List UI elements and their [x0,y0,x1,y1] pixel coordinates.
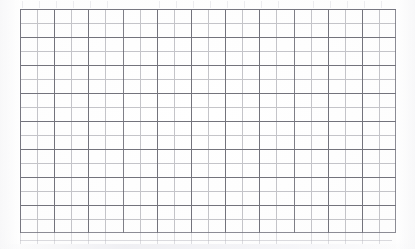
grid-block [20,9,396,233]
top-edge-ruling-artifact [22,1,392,8]
bottom-edge-rule-line [20,240,392,241]
left-margin-shading [0,0,20,249]
graph-paper-sheet [0,0,415,249]
scanner-streak [0,244,415,249]
right-margin-shading [396,0,415,249]
grid-outer-border [20,9,396,233]
bottom-edge-ruling-artifact [20,233,396,244]
